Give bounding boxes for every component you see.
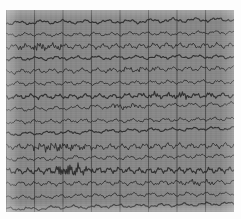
eeg-chart <box>6 10 234 212</box>
screenshot-root <box>0 0 241 219</box>
eeg-plot-svg <box>6 10 234 212</box>
